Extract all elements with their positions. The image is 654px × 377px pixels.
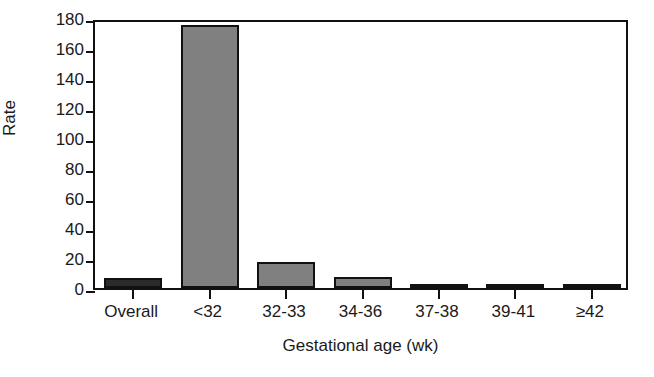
x-axis-tick	[438, 288, 440, 299]
y-axis-tick	[86, 231, 95, 233]
x-axis-tick-label: Overall	[104, 302, 158, 322]
x-axis-tick-label: 32-33	[262, 302, 305, 322]
y-axis-tick	[86, 141, 95, 143]
plot-area	[93, 20, 628, 290]
x-axis-tick	[132, 288, 134, 299]
y-axis-tick-label: 0	[22, 281, 84, 298]
bar	[181, 25, 239, 288]
bar	[334, 277, 392, 288]
y-axis-tick	[86, 51, 95, 53]
y-axis-tick-label: 140	[22, 71, 84, 88]
x-axis-tick	[362, 288, 364, 299]
y-axis-tick-label: 160	[22, 41, 84, 58]
y-axis-tick-label: 80	[22, 161, 84, 178]
x-axis-tick	[591, 288, 593, 299]
x-axis-tick	[285, 288, 287, 299]
x-axis-tick	[514, 288, 516, 299]
x-axis-tick-label: <32	[193, 302, 222, 322]
y-axis-tick-label: 180	[22, 11, 84, 28]
y-axis-tick-label: 20	[22, 251, 84, 268]
y-axis-tick-label: 40	[22, 221, 84, 238]
y-axis-tick-label: 120	[22, 101, 84, 118]
y-axis-tick	[86, 201, 95, 203]
y-axis-tick	[86, 291, 95, 293]
y-axis-tick	[86, 81, 95, 83]
x-axis-tick-label: 39-41	[492, 302, 535, 322]
y-axis-tick	[86, 21, 95, 23]
x-axis-tick-label: 34-36	[339, 302, 382, 322]
y-axis-tick-label: 100	[22, 131, 84, 148]
y-axis-tick	[86, 261, 95, 263]
y-axis-tick-label: 60	[22, 191, 84, 208]
x-axis-tick	[209, 288, 211, 299]
y-axis-tick	[86, 171, 95, 173]
y-axis-title: Rate	[0, 58, 20, 178]
bar	[104, 278, 162, 288]
bar	[257, 262, 315, 288]
x-axis-tick-label: ≥42	[576, 302, 604, 322]
x-axis-tick-label: 37-38	[415, 302, 458, 322]
y-axis-tick-labels: 020406080100120140160180	[20, 0, 84, 377]
plot-inner	[95, 22, 626, 288]
x-axis-title: Gestational age (wk)	[93, 336, 628, 356]
y-axis-tick	[86, 111, 95, 113]
bar-chart-figure: Rate 020406080100120140160180 Overall<32…	[0, 0, 654, 377]
x-axis-tick-labels: Overall<3232-3334-3637-3839-41≥42	[93, 302, 628, 326]
